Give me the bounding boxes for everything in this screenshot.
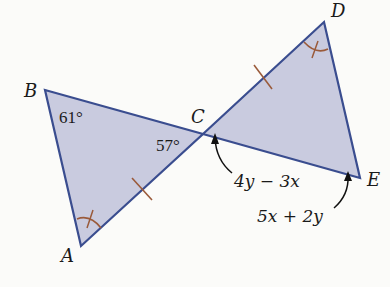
expression-ce-near-e: 5x + 2y: [257, 206, 323, 226]
vertex-label-b: B: [23, 80, 37, 101]
vertex-label-e: E: [366, 169, 380, 190]
angle-label-c: 57°: [156, 136, 180, 155]
triangle-cde: [203, 22, 360, 178]
expression-ce-near-c: 4y − 3x: [233, 171, 300, 191]
angle-label-b: 61°: [59, 108, 83, 127]
vertex-label-a: A: [59, 245, 74, 266]
diagram-canvas: B C D A E 61° 57° 4y − 3x 5x + 2y: [0, 0, 390, 287]
vertex-label-c: C: [191, 106, 205, 127]
vertex-label-d: D: [330, 0, 346, 21]
